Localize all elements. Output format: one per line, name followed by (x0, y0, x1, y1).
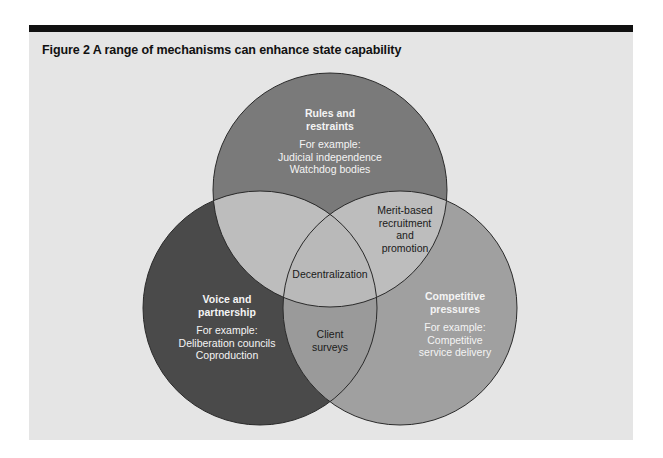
venn-diagram (0, 0, 663, 458)
rules-label: Rules and restraints For example: Judici… (260, 107, 400, 176)
voice-heading-1: Voice and (162, 293, 292, 306)
merit-line-2: recruitment (360, 217, 450, 230)
competitive-example-2: service delivery (400, 346, 510, 359)
competitive-example-label: For example: (400, 321, 510, 334)
rules-example-1: Judicial independence (260, 151, 400, 164)
rules-heading-1: Rules and (260, 107, 400, 120)
merit-line-3: and (360, 229, 450, 242)
competitive-heading-2: pressures (400, 303, 510, 316)
center-label: Decentralization (280, 268, 380, 281)
rules-example-label: For example: (260, 138, 400, 151)
voice-example-2: Coproduction (162, 349, 292, 362)
merit-label: Merit-based recruitment and promotion (360, 204, 450, 254)
competitive-heading-1: Competitive (400, 290, 510, 303)
voice-heading-2: partnership (162, 306, 292, 319)
competitive-example-1: Competitive (400, 334, 510, 347)
competitive-label: Competitive pressures For example: Compe… (400, 290, 510, 359)
client-surveys-line-2: surveys (300, 341, 360, 354)
voice-example-label: For example: (162, 324, 292, 337)
merit-line-4: promotion (360, 242, 450, 255)
voice-example-1: Deliberation councils (162, 337, 292, 350)
client-surveys-line-1: Client (300, 328, 360, 341)
rules-heading-2: restraints (260, 120, 400, 133)
merit-line-1: Merit-based (360, 204, 450, 217)
voice-label: Voice and partnership For example: Delib… (162, 293, 292, 362)
rules-example-2: Watchdog bodies (260, 163, 400, 176)
client-surveys-label: Client surveys (300, 328, 360, 353)
